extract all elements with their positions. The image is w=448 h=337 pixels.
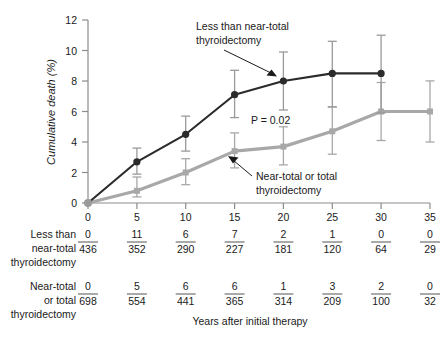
risk-row1-num-5: 11 <box>131 228 142 240</box>
risk-row2-num-0: 0 <box>85 280 91 292</box>
y-axis-title: Cumulative death (%) <box>45 59 57 165</box>
risk-row2-den-25: 209 <box>324 295 342 307</box>
data-point-dark-10 <box>182 131 189 138</box>
risk-row1-num-20: 2 <box>280 228 286 240</box>
data-point-gray-10 <box>183 170 189 176</box>
x-axis: 0 5 10 15 20 25 30 35 <box>85 203 436 223</box>
data-point-origin <box>84 199 92 207</box>
risk-row2-label-line-2: or total <box>44 294 76 306</box>
annotation-gray-arrowhead <box>228 156 239 164</box>
risk-row1-num-15: 7 <box>232 228 238 240</box>
risk-table-row-less-than-near-total: Less than near-total thyroidectomy 0 436… <box>11 228 440 268</box>
x-tick-label-35: 35 <box>424 211 436 223</box>
risk-row2-num-25: 3 <box>329 280 335 292</box>
risk-row2-den-30: 100 <box>372 295 390 307</box>
y-tick-label-2: 2 <box>71 167 77 179</box>
data-point-dark-25 <box>329 70 336 77</box>
y-axis: 12 10 8 6 4 2 0 Cumulative death (%) <box>45 14 88 209</box>
data-point-gray-5 <box>134 188 140 194</box>
series-less-than-near-total <box>84 35 386 207</box>
annotation-dark-arrowhead <box>267 70 278 77</box>
risk-row2-den-35: 32 <box>424 295 436 307</box>
risk-row1-den-10: 290 <box>177 243 195 255</box>
risk-row2-num-35: 0 <box>427 280 433 292</box>
data-point-dark-20 <box>280 77 287 84</box>
risk-row1-den-5: 352 <box>128 243 146 255</box>
risk-row2-den-20: 314 <box>275 295 293 307</box>
kaplan-meier-chart: 12 10 8 6 4 2 0 Cumulative death (%) 0 5… <box>0 0 448 337</box>
risk-row2-num-30: 2 <box>378 280 384 292</box>
data-point-gray-15 <box>232 148 238 154</box>
annotation-near-total-or-total: Near-total or total thyroidectomy <box>228 156 337 196</box>
risk-row1-label-line-3: thyroidectomy <box>11 256 77 268</box>
annotation-less-than-near-total: Less than near-total thyroidectomy <box>196 20 289 77</box>
risk-row1-num-35: 0 <box>427 228 433 240</box>
risk-row1-den-25: 120 <box>324 243 342 255</box>
data-point-dark-5 <box>133 158 140 165</box>
risk-row2-den-10: 441 <box>177 295 195 307</box>
annotation-pvalue: P = 0.02 <box>251 114 290 126</box>
data-point-gray-35 <box>427 109 433 115</box>
x-tick-label-25: 25 <box>326 211 338 223</box>
risk-row1-den-35: 29 <box>424 243 436 255</box>
y-tick-label-0: 0 <box>71 197 77 209</box>
annotation-dark-line-2: thyroidectomy <box>196 34 262 46</box>
y-tick-label-8: 8 <box>71 75 77 87</box>
data-point-gray-20 <box>280 144 286 150</box>
x-axis-title: Years after initial therapy <box>192 315 308 327</box>
y-tick-label-10: 10 <box>65 45 77 57</box>
x-tick-label-10: 10 <box>180 211 192 223</box>
y-tick-label-6: 6 <box>71 106 77 118</box>
risk-row2-num-5: 5 <box>134 280 140 292</box>
risk-row1-num-0: 0 <box>85 228 91 240</box>
annotation-gray-line-1: Near-total or total <box>256 170 337 182</box>
risk-row1-den-15: 227 <box>226 243 244 255</box>
risk-row2-label-line-3: thyroidectomy <box>11 308 77 320</box>
risk-row1-den-0: 436 <box>79 243 97 255</box>
risk-row1-label-line-2: near-total <box>32 242 76 254</box>
risk-row2-num-15: 6 <box>232 280 238 292</box>
y-tick-label-4: 4 <box>71 136 77 148</box>
figure-container: 12 10 8 6 4 2 0 Cumulative death (%) 0 5… <box>0 0 448 337</box>
x-tick-label-20: 20 <box>278 211 290 223</box>
x-tick-label-15: 15 <box>229 211 241 223</box>
risk-row2-num-10: 6 <box>183 280 189 292</box>
risk-table-row-near-total-or-total: Near-total or total thyroidectomy 0 698 … <box>11 280 440 320</box>
error-bars-dark <box>132 35 385 174</box>
x-tick-label-0: 0 <box>85 211 91 223</box>
data-point-gray-25 <box>329 128 335 134</box>
risk-row1-label-line-1: Less than <box>30 228 76 240</box>
risk-row2-den-15: 365 <box>226 295 244 307</box>
x-tick-label-5: 5 <box>134 211 140 223</box>
risk-row2-den-5: 554 <box>128 295 146 307</box>
risk-row1-den-30: 64 <box>375 243 387 255</box>
data-point-dark-15 <box>231 91 238 98</box>
annotation-dark-leader-line <box>224 50 271 73</box>
risk-row1-den-20: 181 <box>275 243 293 255</box>
risk-row1-num-25: 1 <box>329 228 335 240</box>
risk-row1-num-10: 6 <box>183 228 189 240</box>
x-tick-label-30: 30 <box>375 211 387 223</box>
data-point-dark-30 <box>378 70 385 77</box>
annotation-gray-line-2: thyroidectomy <box>256 184 322 196</box>
risk-row2-label-line-1: Near-total <box>30 280 76 292</box>
pvalue-text: P = 0.02 <box>251 114 290 126</box>
risk-row1-num-30: 0 <box>378 228 384 240</box>
risk-row2-den-0: 698 <box>79 295 97 307</box>
y-tick-label-12: 12 <box>65 14 77 26</box>
risk-row2-num-20: 1 <box>280 280 286 292</box>
annotation-dark-line-1: Less than near-total <box>196 20 289 32</box>
